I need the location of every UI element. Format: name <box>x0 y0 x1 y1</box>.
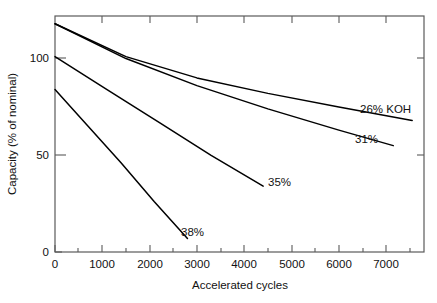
x-axis-title: Accelerated cycles <box>192 279 288 291</box>
x-tick-label-5000: 5000 <box>279 258 305 270</box>
x-tick-label-1000: 1000 <box>89 258 115 270</box>
series-label-35: 35% <box>268 176 291 188</box>
y-tick-label-0: 0 <box>43 246 49 258</box>
y-axis-title: Capacity (% of nominal) <box>6 73 18 195</box>
chart-background <box>0 0 437 303</box>
series-label-38: 38% <box>181 226 204 238</box>
x-tick-label-6000: 6000 <box>326 258 352 270</box>
capacity-vs-cycles-chart: 0 50 100 0 1000 2000 3000 4000 5000 6000… <box>0 0 437 303</box>
series-label-26-koh: 26% KOH <box>360 103 411 115</box>
x-tick-label-3000: 3000 <box>184 258 210 270</box>
chart-page: 0 50 100 0 1000 2000 3000 4000 5000 6000… <box>0 0 437 303</box>
x-tick-label-2000: 2000 <box>137 258 163 270</box>
y-tick-label-50: 50 <box>36 149 49 161</box>
series-label-31: 31% <box>355 133 378 145</box>
y-tick-label-100: 100 <box>30 52 49 64</box>
x-tick-label-0: 0 <box>52 258 58 270</box>
x-tick-label-4000: 4000 <box>231 258 257 270</box>
x-tick-label-7000: 7000 <box>373 258 399 270</box>
